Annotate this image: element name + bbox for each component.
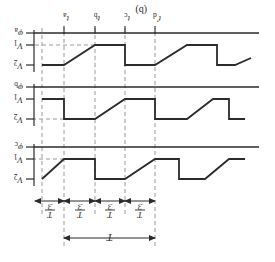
phase-a-axis-ticks <box>26 30 34 72</box>
phase-a-level-v2-label: V2 <box>14 58 23 71</box>
phase-a-level-v1-label: V1 <box>14 38 23 51</box>
phase-c-waveform <box>42 159 245 179</box>
subinterval-2-numerator: T <box>107 210 113 220</box>
phase-c-level-v2-label: V2 <box>14 172 23 185</box>
phase-b-level-v1-label: V1 <box>14 92 23 105</box>
phase-b-axis-ticks <box>26 84 34 126</box>
trace-phase-c <box>26 144 259 186</box>
trace-phase-b <box>26 84 259 126</box>
phase-b-axis-label: φb <box>14 80 23 93</box>
phase-c-axis-ticks <box>26 144 34 186</box>
phase-a-waveform <box>42 45 251 65</box>
subinterval-4-numerator: T <box>47 210 53 220</box>
time-marker-tc: tc <box>124 11 130 24</box>
phase-b-waveform <box>42 99 245 119</box>
waveform-chart: T 3 T 3 T 3 <box>0 0 275 262</box>
phase-a-axis-label: φa <box>15 26 23 39</box>
period-dimension: T <box>64 232 155 244</box>
phase-c-level-v1-label: V1 <box>14 152 23 165</box>
trace-phase-a <box>26 30 259 72</box>
figure-caption: (b) <box>135 5 147 16</box>
period-label: T <box>106 232 113 244</box>
time-marker-tb: tb <box>94 11 100 24</box>
time-marker-td: t'd <box>153 11 161 24</box>
phase-b-level-v2-label: V2 <box>14 112 23 125</box>
subinterval-3-numerator: T <box>77 210 83 220</box>
phase-c-axis-label: φc <box>15 140 23 153</box>
rotated-figure: T 3 T 3 T 3 <box>0 0 275 262</box>
subinterval-1-numerator: T <box>137 210 143 220</box>
time-marker-ta: ta <box>63 11 69 24</box>
figure-root: T 3 T 3 T 3 <box>0 0 275 262</box>
